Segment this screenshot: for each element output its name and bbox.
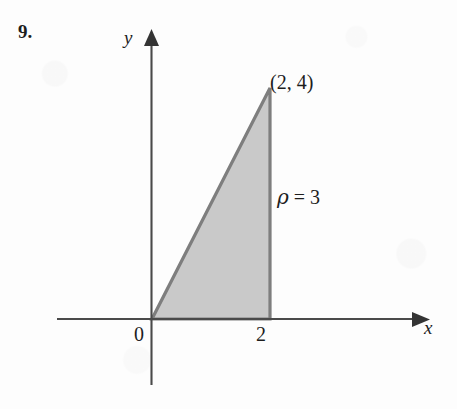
coordinate-plot <box>0 0 457 409</box>
x-tick-label-2: 2 <box>256 324 266 344</box>
rho-symbol: ρ <box>277 185 289 209</box>
x-axis-label: x <box>424 318 432 337</box>
density-value: = 3 <box>289 186 320 208</box>
y-axis-label: y <box>124 28 132 47</box>
origin-tick-label: 0 <box>134 324 144 344</box>
y-axis-arrowhead <box>144 29 159 46</box>
density-label: ρ = 3 <box>277 187 320 207</box>
shaded-triangular-region <box>152 88 270 319</box>
exercise-number-label: 9. <box>18 22 32 41</box>
figure-container: 9. y x 0 2 (2, 4) ρ = 3 <box>0 0 457 409</box>
vertex-coordinate-label: (2, 4) <box>270 72 313 92</box>
